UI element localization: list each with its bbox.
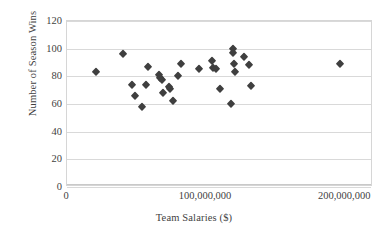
gridline bbox=[67, 187, 371, 188]
y-axis-tick-labels: 020406080100120 bbox=[28, 0, 62, 242]
data-point bbox=[239, 52, 248, 61]
gridline bbox=[67, 104, 371, 105]
data-point bbox=[227, 99, 236, 108]
data-point bbox=[157, 76, 166, 85]
scatter-chart: Number of Season Wins 020406080100120 01… bbox=[0, 0, 388, 242]
x-axis-tick-labels: 0100,000,000200,000,000 bbox=[0, 190, 388, 204]
plot-area bbox=[66, 20, 372, 186]
x-axis-title: Team Salaries ($) bbox=[0, 212, 388, 223]
y-tick-label: 40 bbox=[28, 125, 62, 136]
data-point bbox=[128, 80, 137, 89]
y-tick-label: 100 bbox=[28, 42, 62, 53]
y-tick-label: 80 bbox=[28, 70, 62, 81]
data-point bbox=[195, 65, 204, 74]
data-point bbox=[215, 84, 224, 93]
data-point bbox=[92, 68, 101, 77]
x-tick-label: 0 bbox=[63, 190, 68, 201]
gridline bbox=[67, 49, 371, 50]
data-point bbox=[230, 68, 239, 77]
data-point bbox=[118, 50, 127, 59]
data-point bbox=[245, 61, 254, 70]
data-point bbox=[174, 72, 183, 81]
data-point bbox=[246, 81, 255, 90]
data-point bbox=[142, 80, 151, 89]
y-tick-label: 60 bbox=[28, 98, 62, 109]
data-point bbox=[335, 59, 344, 68]
data-point bbox=[131, 91, 140, 100]
y-tick-label: 120 bbox=[28, 15, 62, 26]
data-point bbox=[211, 65, 220, 74]
gridline bbox=[67, 21, 371, 22]
gridline bbox=[67, 159, 371, 160]
y-tick-label: 20 bbox=[28, 153, 62, 164]
x-tick-label: 100,000,000 bbox=[179, 190, 232, 201]
gridline bbox=[67, 132, 371, 133]
data-point bbox=[143, 62, 152, 71]
x-tick-label: 200,000,000 bbox=[318, 190, 371, 201]
gridline bbox=[67, 76, 371, 77]
x-axis-line bbox=[67, 184, 371, 185]
data-point bbox=[177, 59, 186, 68]
